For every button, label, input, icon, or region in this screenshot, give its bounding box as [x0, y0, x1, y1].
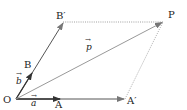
label-vector-a: a — [31, 98, 36, 108]
label-aprime: A′ — [126, 95, 137, 106]
label-p: P — [168, 9, 175, 20]
label-bprime: B′ — [56, 10, 66, 21]
label-o: O — [3, 94, 11, 105]
label-b: B — [24, 59, 31, 70]
label-a: A — [54, 99, 63, 110]
vector-p-arrow — [16, 23, 162, 100]
label-vector-b: b — [16, 76, 22, 86]
vector-diagram: O A A′ B B′ P → a → b → p — [0, 0, 187, 110]
diagram-canvas: O A A′ B B′ P → a → b → p — [0, 0, 187, 110]
label-vector-p: p — [86, 42, 92, 52]
edge-aprime-p — [125, 22, 163, 99]
